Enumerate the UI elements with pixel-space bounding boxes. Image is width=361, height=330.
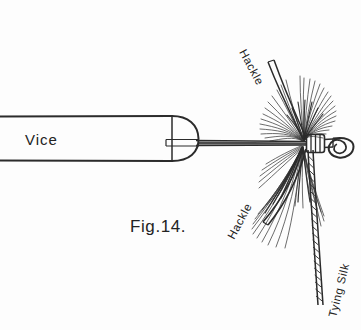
vice-label: Vice (25, 131, 58, 148)
hook-eye (324, 138, 354, 158)
vice-jaw-cap (172, 116, 199, 161)
hackle-top-label: Hackle (237, 47, 266, 87)
tying-silk-label: Tying Silk (326, 262, 351, 318)
hook-shank (166, 140, 306, 147)
hackle-bottom-label: Hackle (225, 201, 254, 241)
figure-plate: Vice Fig.14. Hackle Hackle Tying Silk (0, 0, 361, 330)
hackle-feather-upper (260, 60, 336, 141)
figure-illustration: Vice Fig.14. Hackle Hackle Tying Silk (0, 0, 361, 330)
figure-caption: Fig.14. (130, 217, 186, 236)
thread-head-wraps (307, 135, 325, 153)
